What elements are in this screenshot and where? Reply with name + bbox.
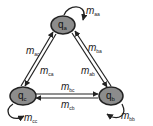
edge-ab-pair	[72, 31, 111, 87]
label-m-bc: mbc	[61, 81, 75, 93]
label-m-ac: mac	[26, 45, 40, 57]
label-m-ca: mca	[40, 65, 54, 77]
node-a: qa	[51, 16, 75, 34]
state-diagram: qa qc qb maa mbb mcc mac mca mba mab mbc…	[0, 0, 153, 126]
label-m-ba: mba	[88, 42, 102, 54]
label-m-aa: maa	[86, 5, 100, 17]
label-m-bb: mbb	[121, 110, 135, 122]
label-m-cb: mcb	[61, 99, 75, 111]
self-loop-cc	[8, 104, 24, 118]
edge-b-to-a	[75, 31, 111, 86]
node-b: qb	[99, 87, 123, 105]
edge-bc-pair	[36, 94, 98, 98]
edge-a-to-c	[25, 34, 56, 86]
label-m-cc: mcc	[24, 112, 38, 124]
edge-c-to-a	[21, 32, 53, 86]
node-c: qc	[10, 87, 36, 105]
label-m-ab: mab	[81, 65, 95, 77]
edge-ac-pair	[21, 32, 56, 86]
